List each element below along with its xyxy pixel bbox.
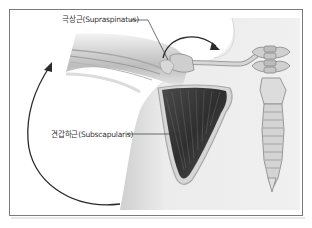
shoulder-anatomy-illustration xyxy=(0,0,312,228)
supraspinatus-label: 극상근(Supraspinatus) xyxy=(62,15,139,24)
subscapularis-label: 견갑하근(Subscapularis) xyxy=(51,130,133,139)
